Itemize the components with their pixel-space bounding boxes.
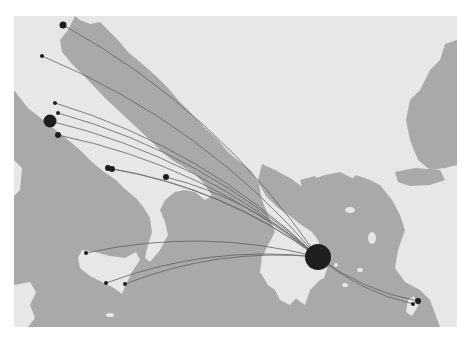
map-node[interactable] <box>55 132 61 138</box>
map-node[interactable] <box>109 166 115 172</box>
map-node[interactable] <box>56 111 60 115</box>
map-canvas[interactable] <box>14 16 457 327</box>
island <box>342 283 348 287</box>
map-node[interactable] <box>123 282 127 286</box>
island <box>357 268 363 272</box>
map-node[interactable] <box>163 174 169 180</box>
map-frame[interactable] <box>14 16 457 327</box>
island <box>106 313 114 317</box>
island <box>368 232 376 244</box>
map-node[interactable] <box>44 115 57 128</box>
map-node[interactable] <box>40 54 44 58</box>
hub-node[interactable] <box>305 244 331 270</box>
map-node[interactable] <box>60 22 67 29</box>
map-node[interactable] <box>84 251 88 255</box>
map-node[interactable] <box>53 101 57 105</box>
map-node[interactable] <box>411 302 415 306</box>
island <box>334 263 338 267</box>
map-node[interactable] <box>415 298 421 304</box>
map-node[interactable] <box>104 281 108 285</box>
island <box>345 207 355 213</box>
